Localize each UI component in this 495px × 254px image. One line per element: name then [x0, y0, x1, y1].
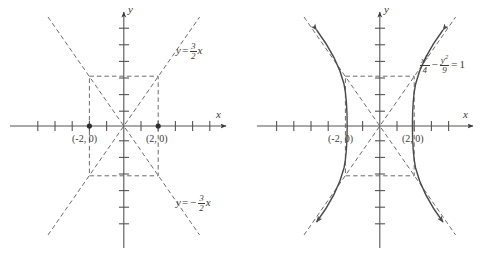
y-axis-label: y [384, 4, 389, 15]
vertex-label-right: (2, 0) [146, 134, 168, 144]
asymptotes-panel: y x (-2, 0) (2, 0) y=32x y=−32x [0, 0, 248, 254]
vertex-label-right: (2, 0) [402, 134, 424, 144]
asymptote-negative-variable: x [206, 196, 211, 208]
equation-term2-exponent: 2 [445, 53, 449, 61]
hyperbola-equation-label: x24−y29=1 [419, 56, 466, 76]
equation-term1-denominator: 4 [420, 66, 430, 75]
vertex-label-left: (-2, 0) [328, 134, 353, 144]
asymptote-negative-fraction: 32 [198, 194, 205, 214]
hyperbola-figure: y x (-2, 0) (2, 0) y=32x y=−32x [0, 0, 495, 254]
x-axis [10, 121, 226, 131]
asymptote-negative-denominator: 2 [198, 204, 205, 213]
asymptote-positive-label: y=32x [176, 42, 203, 62]
x-axis [257, 121, 473, 131]
asymptote-negative-label: y=−32x [176, 194, 211, 214]
equation-rhs: 1 [458, 58, 466, 70]
equation-term2-denominator: 9 [440, 66, 450, 75]
asymptote-positive-denominator: 2 [190, 52, 197, 61]
asymptote-positive-equals: = [181, 44, 189, 56]
x-axis-label: x [463, 109, 468, 120]
asymptote-negative-equals: = [181, 196, 189, 208]
asymptote-negative-sign: − [189, 196, 197, 208]
vertex-label-left: (-2, 0) [72, 134, 97, 144]
equation-term2-fraction: y29 [440, 56, 450, 76]
equation-term1-exponent: 2 [425, 53, 429, 61]
x-axis-label: x [216, 109, 221, 120]
asymptote-positive-fraction: 32 [190, 42, 197, 62]
y-axis-label: y [128, 4, 133, 15]
hyperbola-panel: y x (-2, 0) (2, 0) x24−y29=1 [247, 0, 495, 254]
asymptotes-plot [0, 0, 248, 254]
equation-minus: − [431, 58, 439, 70]
asymptote-positive-variable: x [198, 44, 203, 56]
hyperbola-plot [247, 0, 495, 254]
equation-term1-fraction: x24 [420, 56, 430, 76]
